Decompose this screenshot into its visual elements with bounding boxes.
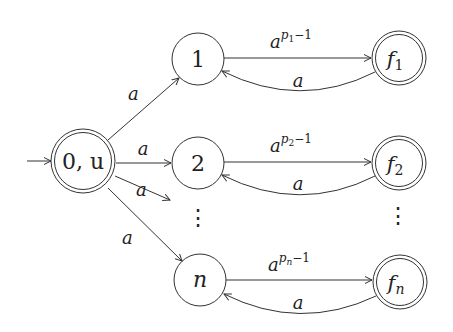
edge-start-1-label: a — [128, 83, 139, 104]
edge-start-ellipsis-label: a — [136, 179, 147, 200]
node-start: 0, u — [51, 129, 115, 193]
svg-text:ap2−1: ap2−1 — [270, 132, 312, 156]
edge-f2-2-label: a — [293, 173, 304, 194]
edge-start-1 — [108, 78, 179, 140]
ellipsis-middle: ⋮ — [187, 205, 209, 230]
node-f1-sub: 1 — [394, 57, 403, 73]
svg-text:fn: fn — [386, 271, 405, 297]
node-2-label: 2 — [191, 151, 205, 176]
node-fn-sub: n — [395, 281, 404, 297]
node-1-label: 1 — [191, 47, 205, 72]
node-n-label: n — [193, 267, 207, 292]
node-n: n — [174, 254, 226, 306]
edge-fn-n-label: a — [293, 292, 304, 313]
edge-f1-1-label: a — [293, 70, 304, 91]
edge-1-f1-label: a — [270, 31, 281, 52]
node-2: 2 — [172, 137, 224, 189]
node-1: 1 — [172, 33, 224, 85]
edge-2-f2-label: a — [270, 135, 281, 156]
svg-text:f2: f2 — [385, 152, 404, 178]
svg-text:apn−1: apn−1 — [268, 251, 310, 275]
edge-start-n-label: a — [122, 227, 133, 248]
node-f2: f2 — [372, 136, 426, 190]
edge-start-2-label: a — [138, 138, 149, 159]
edge-n-fn-label: a — [268, 254, 279, 275]
node-f1: f1 — [372, 31, 426, 85]
node-start-label: 0, u — [62, 149, 104, 174]
node-fn: fn — [373, 255, 427, 309]
node-f2-sub: 2 — [394, 162, 403, 178]
svg-text:ap1−1: ap1−1 — [270, 28, 312, 52]
ellipsis-right: ⋮ — [387, 203, 409, 228]
automaton-diagram: 0, u 1 2 n f1 f2 fn a a a a ⋮ ⋮ — [0, 0, 453, 332]
svg-text:f1: f1 — [385, 47, 404, 73]
